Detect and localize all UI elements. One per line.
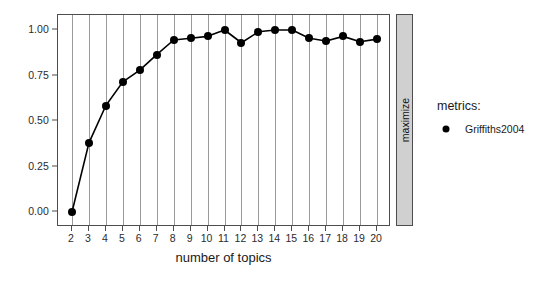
data-point — [373, 35, 381, 43]
x-axis-title: number of topics — [57, 250, 390, 265]
x-tick-label: 15 — [285, 232, 297, 244]
x-tick-label: 14 — [268, 232, 280, 244]
x-tick-label: 11 — [218, 232, 229, 244]
x-tick-label: 9 — [187, 232, 193, 244]
x-tick-mark — [224, 226, 225, 231]
x-tick-label: 8 — [170, 232, 176, 244]
x-tick-label: 4 — [102, 232, 108, 244]
x-tick-mark — [291, 226, 292, 231]
x-tick-label: 10 — [201, 232, 213, 244]
chart-figure: 0.000.250.500.751.00 2345678910111213141… — [0, 0, 544, 282]
data-point — [187, 34, 195, 42]
x-tick-mark — [139, 226, 140, 231]
data-points — [58, 15, 389, 225]
data-point — [85, 139, 93, 147]
x-tick-label: 17 — [319, 232, 331, 244]
legend: metrics: Griffiths2004 — [437, 99, 541, 136]
facet-strip: maximize — [396, 14, 413, 226]
data-point — [237, 39, 245, 47]
x-tick-mark — [105, 226, 106, 231]
x-tick-mark — [376, 226, 377, 231]
data-point — [136, 66, 144, 74]
x-tick-mark — [359, 226, 360, 231]
y-axis: 0.000.250.500.751.00 — [0, 14, 57, 226]
y-tick-label: 0.50 — [28, 114, 49, 126]
data-point — [204, 32, 212, 40]
x-tick-label: 18 — [336, 232, 348, 244]
facet-strip-label: maximize — [399, 98, 411, 142]
data-point — [153, 51, 161, 59]
x-tick-mark — [190, 226, 191, 231]
x-tick-mark — [308, 226, 309, 231]
x-tick-label: 3 — [85, 232, 91, 244]
legend-item-griffiths2004[interactable]: Griffiths2004 — [437, 122, 541, 136]
x-tick-mark — [240, 226, 241, 231]
x-tick-mark — [207, 226, 208, 231]
data-point — [170, 36, 178, 44]
x-axis: 234567891011121314151617181920 — [57, 226, 390, 248]
data-point — [288, 26, 296, 34]
data-point — [254, 28, 262, 36]
x-tick-mark — [71, 226, 72, 231]
data-point — [305, 34, 313, 42]
data-point — [339, 32, 347, 40]
x-tick-mark — [257, 226, 258, 231]
y-tick-label: 0.75 — [28, 69, 49, 81]
legend-title: metrics: — [437, 99, 541, 113]
data-point — [68, 208, 76, 216]
data-point — [102, 102, 110, 110]
x-tick-mark — [156, 226, 157, 231]
x-tick-mark — [88, 226, 89, 231]
x-tick-mark — [342, 226, 343, 231]
y-tick-label: 1.00 — [28, 23, 49, 35]
x-tick-label: 2 — [68, 232, 74, 244]
x-tick-label: 13 — [252, 232, 264, 244]
y-tick-label: 0.25 — [28, 160, 49, 172]
x-tick-mark — [274, 226, 275, 231]
x-tick-mark — [173, 226, 174, 231]
legend-item-label: Griffiths2004 — [465, 123, 524, 135]
data-point — [322, 37, 330, 45]
data-point — [271, 26, 279, 34]
x-tick-label: 6 — [136, 232, 142, 244]
data-point — [356, 38, 364, 46]
x-tick-label: 12 — [235, 232, 247, 244]
circle-marker-icon — [437, 122, 455, 136]
x-tick-mark — [325, 226, 326, 231]
data-point — [221, 26, 229, 34]
y-tick-label: 0.00 — [28, 205, 49, 217]
x-tick-label: 7 — [153, 232, 159, 244]
data-point — [119, 78, 127, 86]
x-tick-label: 5 — [119, 232, 125, 244]
plot-panel — [57, 14, 390, 226]
x-tick-mark — [122, 226, 123, 231]
x-tick-label: 19 — [353, 232, 365, 244]
x-tick-label: 20 — [370, 232, 382, 244]
x-tick-label: 16 — [302, 232, 314, 244]
